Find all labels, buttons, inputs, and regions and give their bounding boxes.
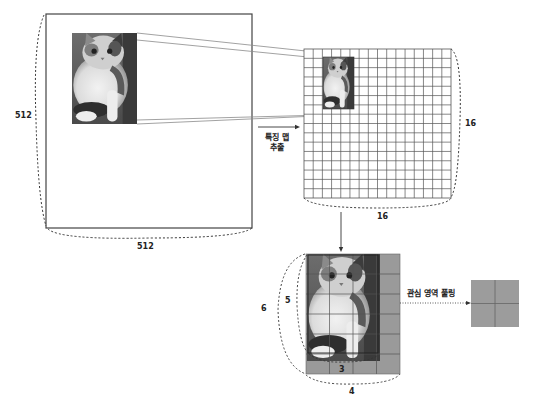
- roi-outer-width-brace: [306, 374, 400, 384]
- pool-label: 관심 영역 풀링: [407, 290, 455, 298]
- pool-arrow: [400, 301, 471, 305]
- extract-label-line1: 특징 맵: [257, 133, 297, 143]
- extract-label: 특징 맵 추출: [257, 133, 297, 153]
- diagram-canvas: [0, 0, 534, 407]
- input-height-brace: [35, 15, 46, 226]
- feature-map-height-label: 16: [465, 120, 476, 128]
- roi-inner-width-label: 3: [339, 366, 345, 374]
- roi-region: [306, 254, 400, 374]
- roi-outer-width-label: 4: [349, 388, 355, 396]
- extract-label-line2: 추출: [257, 143, 297, 153]
- input-width-brace: [48, 228, 252, 238]
- down-arrow: [339, 212, 343, 252]
- feature-map-cat-thumbnail: [323, 57, 354, 109]
- feature-map-width-label: 16: [377, 213, 388, 221]
- input-height-label: 512: [15, 112, 32, 120]
- roi-outer-height-brace: [278, 254, 306, 374]
- input-cat-photo: [72, 33, 137, 124]
- pooled-output-grid: [471, 280, 519, 327]
- feature-map-width-brace: [304, 198, 451, 208]
- feature-map-height-brace: [451, 49, 460, 197]
- roi-inner-height-label: 5: [285, 297, 291, 305]
- input-width-label: 512: [137, 243, 154, 251]
- roi-outer-height-label: 6: [261, 305, 267, 313]
- extract-arrow: [258, 125, 300, 129]
